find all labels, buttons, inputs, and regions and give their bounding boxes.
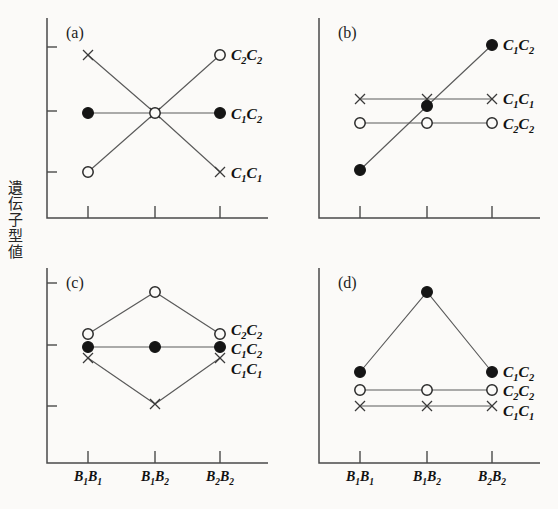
panel-b: (b) C1C2 C1C1 C2C2 bbox=[319, 18, 540, 218]
panel-d-line-c1c2 bbox=[360, 292, 492, 372]
panel-d-series-label-c2c2: C2C2 bbox=[503, 382, 535, 402]
svg-text:B1B1: B1B1 bbox=[73, 469, 102, 487]
panel-c-marker-c2c2 bbox=[83, 287, 225, 339]
svg-text:C1C1: C1C1 bbox=[503, 90, 534, 110]
panel-a-tag: (a) bbox=[66, 24, 84, 42]
panel-c-tag: (c) bbox=[66, 274, 84, 292]
panel-c-series-label-c2c2: C2C2 bbox=[231, 321, 263, 341]
panel-b-series-label-c2c2: C2C2 bbox=[503, 115, 535, 135]
svg-text:C2C2: C2C2 bbox=[231, 321, 263, 341]
panel-a-series-label-c1c1: C1C1 bbox=[231, 164, 262, 184]
figure-canvas: (a) C2C2 C1C2 C1C1 bbox=[0, 0, 558, 509]
svg-text:C1C2: C1C2 bbox=[231, 105, 263, 125]
svg-text:B2B2: B2B2 bbox=[205, 469, 234, 487]
panel-b-tag: (b) bbox=[338, 24, 357, 42]
svg-text:C2C2: C2C2 bbox=[503, 382, 535, 402]
panel-a: (a) C2C2 C1C2 C1C1 bbox=[47, 18, 268, 218]
panel-c-xaxis-labels: B1B1 B1B2 B2B2 bbox=[73, 469, 234, 487]
svg-text:B2B2: B2B2 bbox=[477, 469, 506, 487]
svg-text:C1C1: C1C1 bbox=[503, 402, 534, 422]
panel-c-line-c1c1 bbox=[88, 358, 220, 404]
panel-b-series-label-c1c2: C1C2 bbox=[503, 36, 535, 56]
svg-text:B1B2: B1B2 bbox=[140, 469, 169, 487]
panel-d-series-label-c1c2: C1C2 bbox=[503, 363, 535, 383]
panel-d-series-label-c1c1: C1C1 bbox=[503, 402, 534, 422]
svg-text:B1B2: B1B2 bbox=[412, 469, 441, 487]
svg-text:C1C1: C1C1 bbox=[231, 164, 262, 184]
panel-b-series-label-c1c1: C1C1 bbox=[503, 90, 534, 110]
panel-a-series-label-c1c2: C1C2 bbox=[231, 105, 263, 125]
panel-c-series-label-c1c1: C1C1 bbox=[231, 360, 262, 380]
panel-c-line-c2c2 bbox=[88, 292, 220, 334]
panel-c-marker-c1c1 bbox=[83, 353, 225, 409]
panel-d-marker-c1c2 bbox=[355, 287, 498, 378]
svg-text:C2C2: C2C2 bbox=[503, 115, 535, 135]
svg-text:C1C1: C1C1 bbox=[231, 360, 262, 380]
svg-text:B1B1: B1B1 bbox=[345, 469, 374, 487]
svg-text:C2C2: C2C2 bbox=[231, 46, 263, 66]
panel-d-tag: (d) bbox=[338, 274, 357, 292]
svg-text:C1C2: C1C2 bbox=[503, 36, 535, 56]
panel-d-xaxis-labels: B1B1 B1B2 B2B2 bbox=[345, 469, 506, 487]
panel-c: (c) C2C2 C1C2 C1C1 B1B1 B1B2 B2B2 bbox=[47, 268, 268, 487]
svg-text:C1C2: C1C2 bbox=[503, 363, 535, 383]
panel-d: (d) C1C2 C2C2 C1C1 B1B1 B1B2 B2B2 bbox=[319, 268, 540, 487]
panel-a-series-label-c2c2: C2C2 bbox=[231, 46, 263, 66]
panel-c-series-label-c1c2: C1C2 bbox=[231, 340, 263, 360]
svg-text:C1C2: C1C2 bbox=[231, 340, 263, 360]
